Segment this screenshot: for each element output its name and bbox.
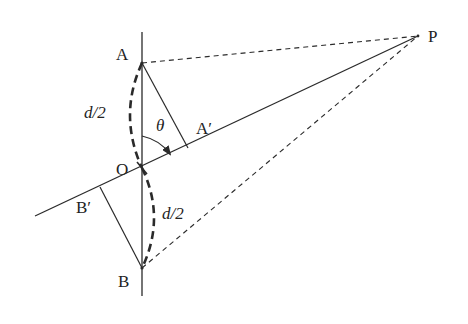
- perpendicular-b-to-b-prime: [100, 187, 142, 268]
- label-upper-d-half: d/2: [84, 103, 106, 122]
- point-p-dot: [417, 35, 420, 38]
- line-to-p: [35, 36, 418, 216]
- point-a-dot: [140, 61, 143, 64]
- theta-angle-arrow: [142, 136, 170, 154]
- label-theta: θ: [156, 116, 164, 135]
- diagram-canvas: A O B P A′ B′ d/2 d/2 θ: [0, 0, 468, 324]
- label-point-p: P: [428, 27, 437, 46]
- dashed-line-b-to-p: [142, 36, 418, 268]
- label-point-a: A: [116, 45, 129, 64]
- perpendicular-a-to-a-prime: [142, 63, 188, 148]
- label-point-b-prime: B′: [76, 198, 91, 217]
- arc-upper-d-half: [130, 63, 142, 168]
- label-point-a-prime: A′: [196, 119, 212, 138]
- label-lower-d-half: d/2: [162, 204, 184, 223]
- point-b-dot: [140, 266, 143, 269]
- label-point-o: O: [116, 160, 128, 179]
- arc-lower-d-half: [142, 168, 154, 268]
- label-point-b: B: [118, 272, 129, 291]
- dashed-line-a-to-p: [142, 36, 418, 63]
